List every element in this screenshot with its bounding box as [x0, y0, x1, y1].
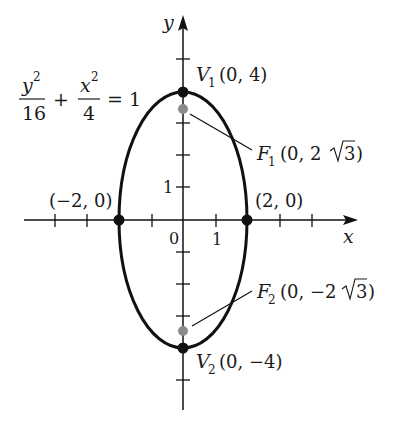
- svg-text:2: 2: [268, 293, 276, 307]
- svg-text:1: 1: [268, 155, 276, 169]
- eq-num1-exp: 2: [33, 70, 41, 84]
- svg-text:(0, 2: (0, 2: [280, 143, 321, 164]
- svg-text:(0, 4): (0, 4): [219, 64, 267, 85]
- svg-text:1: 1: [208, 76, 216, 90]
- svg-text:): ): [368, 281, 375, 302]
- eq-rhs: = 1: [107, 88, 141, 110]
- svg-text:3: 3: [356, 281, 367, 302]
- eq-num2-exp: 2: [91, 70, 99, 84]
- eq-num2: x: [80, 74, 91, 96]
- x-axis-label: x: [343, 225, 354, 247]
- vertex-v2-point: [178, 343, 189, 354]
- eq-plus: +: [53, 88, 69, 110]
- focus-f1-point: [178, 104, 188, 114]
- svg-text:2: 2: [208, 363, 216, 377]
- svg-text:(0, −4): (0, −4): [219, 351, 282, 372]
- vertex-v1-point: [178, 87, 189, 98]
- vertex-left-point: [114, 215, 125, 226]
- v1-label: V 1 (0, 4): [196, 63, 267, 90]
- y-axis-label: y: [162, 11, 174, 33]
- right-vertex-label: (2, 0): [255, 190, 303, 211]
- v2-label: V 2 (0, −4): [196, 350, 282, 377]
- svg-text:): ): [356, 143, 363, 164]
- svg-text:3: 3: [344, 143, 355, 164]
- eq-den1: 16: [22, 102, 46, 124]
- eq-num1: y: [21, 74, 33, 96]
- x-axis: [24, 214, 358, 227]
- left-vertex-label: (−2, 0): [49, 190, 112, 211]
- x-tick-label: 1: [212, 230, 222, 249]
- ellipse-equation: y 2 16 + x 2 4 = 1: [19, 70, 141, 124]
- focus-f2-point: [178, 326, 188, 336]
- ellipse-diagram: y x 0 1 1 y 2 16 + x 2 4 = 1 V 1 (0, 4) …: [0, 0, 397, 423]
- svg-text:(0, −2: (0, −2: [280, 281, 336, 302]
- f2-label: F 2 (0, −2 3 ): [256, 279, 375, 307]
- origin-label: 0: [169, 229, 179, 248]
- eq-den2: 4: [83, 102, 95, 124]
- vertex-right-point: [242, 215, 253, 226]
- f1-label: F 1 (0, 2 3 ): [256, 141, 363, 169]
- y-tick-label: 1: [163, 178, 173, 197]
